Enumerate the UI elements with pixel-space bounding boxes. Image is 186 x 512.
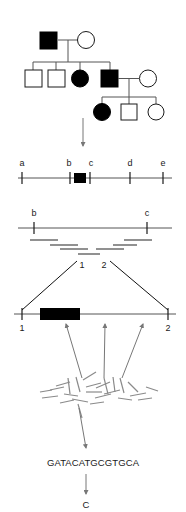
positional-cloning-figure: a b c d e b c 1 2 [0, 0, 186, 512]
genetic-map-disease-locus [74, 173, 86, 183]
pedigree-symbol-III-3-unaffected-female [148, 104, 164, 120]
shotgun-fragment [138, 398, 152, 400]
pedigree-symbol-III-2-unaffected-male [121, 104, 137, 120]
shotgun-fragment [83, 372, 96, 380]
contig-clone-set [30, 240, 152, 254]
expanded-segment-label-1: 1 [19, 323, 24, 333]
shotgun-fragment [118, 398, 132, 400]
genetic-map-label-d: d [127, 158, 132, 168]
pedigree-symbol-III-1-affected-female [94, 104, 111, 121]
expanded-segment-gene-box [40, 308, 80, 320]
shotgun-fragment [128, 382, 138, 392]
pedigree-symbol-II-2-unaffected-male [48, 70, 65, 87]
shotgun-fragment [90, 402, 104, 404]
expansion-guides [22, 261, 168, 310]
shotgun-fragment [95, 394, 111, 398]
expanded-segment-label-2: 2 [165, 323, 170, 333]
shotgun-fragment [130, 393, 146, 396]
contig-endpoint-label-1: 1 [79, 260, 84, 270]
shotgun-fragment [146, 387, 158, 391]
shotgun-fragments [40, 372, 158, 418]
contig-map-label-c: c [145, 208, 150, 218]
expansion-guide-right [110, 261, 168, 310]
physical-contig-map: b c 1 2 [18, 208, 172, 270]
pedigree-symbol-II-5-unaffected-female [140, 70, 157, 87]
pedigree-symbol-II-1-unaffected-male [25, 70, 42, 87]
assembly-arrow-left [66, 324, 82, 378]
genetic-linkage-map: a b c d e [18, 158, 172, 184]
shotgun-fragment [120, 378, 124, 393]
figure-canvas: a b c d e b c 1 2 [0, 0, 186, 512]
pedigree-symbol-I-1-affected-male [40, 32, 57, 49]
assembly-arrow-right [122, 324, 143, 378]
shotgun-fragment [64, 394, 78, 396]
shotgun-fragment [76, 377, 80, 392]
genetic-map-label-e: e [160, 158, 165, 168]
shotgun-fragment [68, 378, 70, 394]
shotgun-fragment [42, 396, 58, 398]
family-pedigree [25, 32, 164, 121]
contig-endpoint-label-2: 2 [101, 260, 106, 270]
dna-sequence-text: GATACATGCGTGCA [47, 457, 140, 468]
shotgun-fragment [72, 399, 88, 402]
genetic-map-label-a: a [19, 158, 24, 168]
variant-base-text: C [83, 499, 90, 510]
assembly-arrow-center [104, 324, 105, 378]
arrow-shotgun-to-sequence [79, 408, 86, 448]
expanded-clone-segment: 1 2 [14, 308, 176, 333]
shotgun-fragment [96, 382, 110, 388]
shotgun-fragment [56, 382, 70, 386]
pedigree-symbol-I-2-unaffected-female [78, 32, 95, 49]
shotgun-fragment [40, 390, 52, 392]
expansion-guide-left [22, 261, 77, 310]
contig-map-label-b: b [31, 208, 36, 218]
genetic-map-label-b: b [66, 158, 71, 168]
shotgun-fragment [104, 390, 120, 394]
shotgun-fragment [104, 378, 108, 394]
genetic-map-label-c: c [89, 158, 94, 168]
pedigree-symbol-II-3-affected-female [72, 70, 89, 87]
pedigree-symbol-II-4-affected-male [101, 70, 118, 87]
assembly-arrows [66, 324, 143, 378]
shotgun-fragment [60, 400, 74, 403]
shotgun-fragment [50, 387, 64, 390]
shotgun-fragment [113, 377, 115, 392]
